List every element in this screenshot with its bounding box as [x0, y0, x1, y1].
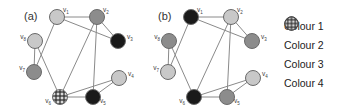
- vertex-label: v8: [154, 33, 160, 42]
- vertex-v7: [161, 65, 176, 80]
- vertex-label: v7: [19, 64, 25, 73]
- panel-label: (b): [158, 10, 171, 22]
- vertex-v6: [53, 90, 68, 105]
- legend: Colour 1 Colour 2 Colour 3 Colour 4: [284, 16, 324, 92]
- vertex-label: v8: [20, 33, 26, 42]
- edge-v2-v6: [60, 17, 97, 97]
- vertex-label: v3: [127, 33, 133, 42]
- vertex-label: v7: [153, 64, 159, 73]
- vertex-v5: [86, 90, 101, 105]
- legend-item-colour-2: Colour 2: [284, 35, 324, 54]
- vertex-label: v4: [262, 70, 268, 79]
- graph-a: (a)v1v2v3v4v5v6v7v8: [19, 6, 134, 106]
- vertex-v3: [245, 34, 260, 49]
- vertex-v8: [162, 34, 177, 49]
- legend-label: Colour 4: [284, 77, 324, 89]
- vertex-v7: [27, 65, 42, 80]
- vertex-label: v6: [179, 97, 185, 106]
- legend-item-colour-4: Colour 4: [284, 73, 324, 92]
- vertex-v6: [187, 90, 202, 105]
- vertex-label: v3: [261, 33, 267, 42]
- vertex-v3: [111, 34, 126, 49]
- vertex-v5: [220, 90, 235, 105]
- vertex-label: v5: [234, 97, 240, 106]
- legend-label: Colour 2: [284, 39, 324, 51]
- edge-v2-v6: [194, 17, 231, 97]
- legend-item-colour-3: Colour 3: [284, 54, 324, 73]
- vertex-label: v5: [100, 97, 106, 106]
- vertex-v4: [112, 71, 127, 86]
- colour-4-checkered-swatch-icon: [284, 16, 299, 31]
- legend-label: Colour 3: [284, 58, 324, 70]
- panel-label: (a): [24, 10, 37, 22]
- vertex-v8: [28, 34, 43, 49]
- graph-b: (b)v1v2v3v4v5v6v7v8: [153, 6, 268, 106]
- vertex-v4: [246, 71, 261, 86]
- vertex-label: v6: [45, 97, 51, 106]
- vertex-label: v4: [128, 70, 134, 79]
